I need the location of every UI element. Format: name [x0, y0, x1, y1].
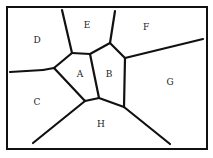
boundary-edge — [72, 53, 90, 54]
boundary-edge — [124, 58, 125, 107]
region-label-g: G — [166, 77, 173, 87]
boundary-edge — [99, 98, 124, 107]
region-label-e: E — [84, 20, 91, 30]
boundary-edge — [85, 98, 99, 101]
boundary-edge — [110, 11, 115, 43]
boundary-edge — [62, 10, 72, 53]
region-label-f: F — [143, 22, 149, 32]
region-label-h: H — [97, 119, 105, 129]
boundary-edge — [43, 68, 54, 70]
region-label-a: A — [76, 69, 84, 79]
boundary-edge — [10, 70, 43, 72]
voronoi-diagram: ABCDEFGH — [0, 0, 213, 158]
region-labels: ABCDEFGH — [33, 20, 173, 129]
boundary-edge — [124, 107, 170, 144]
region-label-d: D — [33, 35, 40, 45]
region-label-b: B — [106, 69, 113, 79]
boundary-edge — [90, 43, 110, 54]
boundary-edge — [110, 43, 125, 58]
boundary-edge — [125, 39, 203, 58]
boundary-edge — [90, 54, 99, 98]
boundary-edge — [54, 53, 72, 68]
region-label-c: C — [34, 97, 41, 107]
boundary-edge — [33, 101, 85, 143]
